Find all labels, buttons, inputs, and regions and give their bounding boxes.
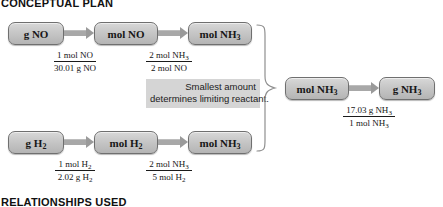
node-g-no-label: g NO xyxy=(24,28,49,40)
arrow-mol-nh3-to-g-nh3 xyxy=(349,85,372,91)
node-g-nh3: g NH3 xyxy=(379,77,435,100)
node-mol-no: mol NO xyxy=(94,22,158,45)
factor-denominator: 1 mol NH3 xyxy=(346,117,392,128)
limiting-reactant-note: Smallest amount determines limiting reac… xyxy=(146,79,260,108)
factor-numerator: 2 mol NH3 xyxy=(146,159,192,171)
conversion-factor-no-to-nh3: 2 mol NH3 2 mol NO xyxy=(124,50,214,74)
limiting-reactant-note-line2: determines limiting reactant. xyxy=(150,93,269,104)
relationships-used-heading: RELATIONSHIPS USED xyxy=(1,196,127,207)
factor-denominator: 30.01 g NO xyxy=(51,62,99,73)
node-g-h2: g H2 xyxy=(8,131,64,154)
factor-denominator: 2.02 g H2 xyxy=(55,171,96,182)
conversion-factor-h2-to-nh3: 2 mol NH3 5 mol H2 xyxy=(124,159,214,183)
arrow-mol-h2-to-mol-nh3 xyxy=(158,139,181,145)
node-mol-nh3-from-h2: mol NH3 xyxy=(188,131,252,154)
conceptual-plan-heading: CONCEPTUAL PLAN xyxy=(1,0,113,9)
arrow-g-no-to-mol-no xyxy=(64,30,87,36)
factor-denominator: 2 mol NO xyxy=(148,62,190,73)
factor-numerator: 17.03 g NH3 xyxy=(343,105,395,117)
node-g-nh3-label: g NH3 xyxy=(393,83,422,95)
node-mol-h2: mol H2 xyxy=(94,131,158,154)
node-mol-nh3-total-label: mol NH3 xyxy=(297,83,338,95)
factor-denominator: 5 mol H2 xyxy=(149,171,188,182)
arrow-mol-no-to-mol-nh3 xyxy=(158,30,181,36)
factor-numerator: 1 mol H2 xyxy=(55,159,94,171)
node-mol-nh3-total: mol NH3 xyxy=(285,77,349,100)
node-mol-no-label: mol NO xyxy=(108,28,145,40)
conversion-factor-h2-molar-mass: 1 mol H2 2.02 g H2 xyxy=(30,159,120,183)
factor-numerator: 2 mol NH3 xyxy=(146,50,192,62)
conversion-factor-nh3-molar-mass: 17.03 g NH3 1 mol NH3 xyxy=(321,105,417,129)
node-g-no: g NO xyxy=(8,22,64,45)
node-mol-h2-label: mol H2 xyxy=(109,137,142,149)
conversion-factor-no-molar-mass: 1 mol NO 30.01 g NO xyxy=(30,50,120,74)
arrow-g-h2-to-mol-h2 xyxy=(64,139,87,145)
limiting-reactant-note-line1: Smallest amount xyxy=(185,81,256,92)
node-g-h2-label: g H2 xyxy=(26,137,47,149)
node-mol-nh3-from-h2-label: mol NH3 xyxy=(200,137,241,149)
node-mol-nh3-from-no: mol NH3 xyxy=(188,22,252,45)
factor-numerator: 1 mol NO xyxy=(54,50,96,62)
node-mol-nh3-from-no-label: mol NH3 xyxy=(200,28,241,40)
